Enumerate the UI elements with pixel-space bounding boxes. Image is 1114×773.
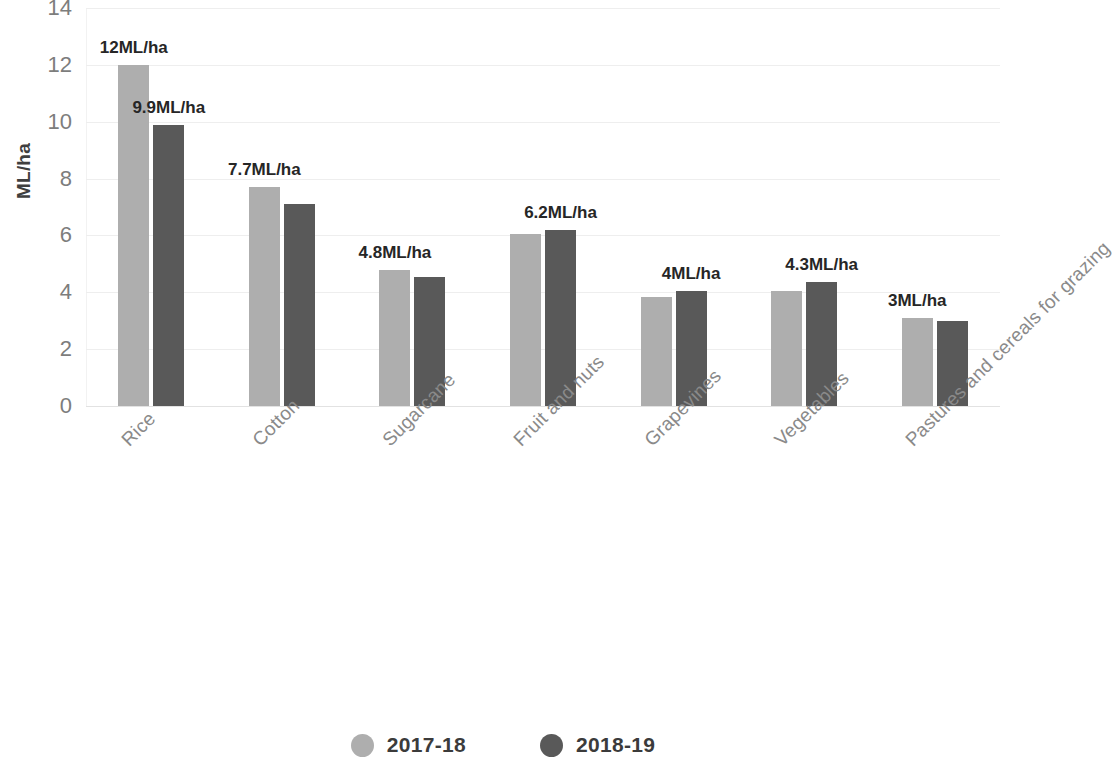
legend-swatch-icon (540, 734, 563, 757)
bar-value-label: 12ML/ha (100, 38, 168, 58)
legend-item[interactable]: 2017-18 (351, 733, 466, 757)
bar (641, 297, 672, 406)
bar-value-label: 7.7ML/ha (228, 160, 301, 180)
legend-item[interactable]: 2018-19 (540, 733, 655, 757)
bar-value-label: 4ML/ha (662, 264, 721, 284)
bar-group: 4ML/ha (641, 8, 707, 406)
bar-group: 6.2ML/ha (510, 8, 576, 406)
bar-value-label: 9.9ML/ha (132, 98, 205, 118)
bar (771, 291, 802, 406)
y-axis-tick-label: 10 (26, 111, 72, 133)
x-axis-category-labels: RiceCottonSugarcaneFruit and nutsGrapevi… (86, 418, 1000, 698)
plot-area: 12ML/ha9.9ML/ha7.7ML/ha4.8ML/ha6.2ML/ha4… (86, 8, 1000, 406)
bar-group: 3ML/ha (902, 8, 968, 406)
bar (379, 270, 410, 406)
legend-label: 2018-19 (576, 733, 655, 757)
y-axis-tick-label: 8 (26, 168, 72, 190)
bar-group: 4.8ML/ha (379, 8, 445, 406)
bar-value-label: 4.3ML/ha (785, 255, 858, 275)
y-axis-tick-label: 12 (26, 54, 72, 76)
bar-group: 12ML/ha9.9ML/ha (118, 8, 184, 406)
bar (153, 125, 184, 406)
legend-label: 2017-18 (387, 733, 466, 757)
bar-value-label: 4.8ML/ha (359, 243, 432, 263)
y-axis-tick-label: 4 (26, 281, 72, 303)
y-axis-tick-label: 2 (26, 338, 72, 360)
bar (902, 318, 933, 406)
bar (249, 187, 280, 406)
y-axis-tick-label: 14 (26, 0, 72, 19)
bar-value-label: 6.2ML/ha (524, 203, 597, 223)
bar (510, 234, 541, 406)
bar (284, 204, 315, 406)
y-axis-tick-label: 6 (26, 224, 72, 246)
x-axis-category-label: Rice (118, 408, 161, 451)
bar-group: 7.7ML/ha (249, 8, 315, 406)
legend-swatch-icon (351, 734, 374, 757)
chart-legend: 2017-182018-19 (0, 733, 1006, 757)
bar-value-label: 3ML/ha (888, 291, 947, 311)
bar-group: 4.3ML/ha (771, 8, 837, 406)
y-axis-tick-label: 0 (26, 395, 72, 417)
y-axis-tick-labels: 02468101214 (16, 0, 72, 773)
